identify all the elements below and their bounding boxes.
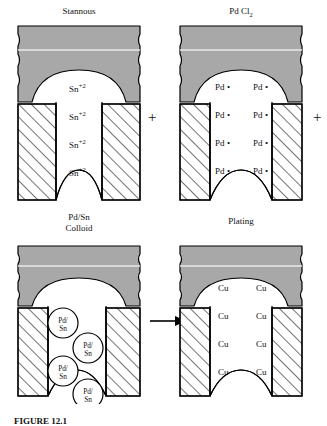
sidewall-left-stannous <box>18 104 56 200</box>
pd-dot-icon: • <box>227 166 230 176</box>
sidewall-left-pdcl2 <box>180 104 210 200</box>
pd-dot-icon: • <box>265 82 268 92</box>
pd-dot-icon: • <box>227 82 230 92</box>
panel-title-colloid-line1: Pd/Sn <box>14 212 144 223</box>
species-label-cu-r2c2: Cu <box>256 311 267 321</box>
sidewall-right-plating <box>272 308 302 396</box>
figure-caption: FIGURE 12.1 <box>14 416 67 426</box>
species-label-pd-r3c1: Pd • <box>215 138 230 148</box>
sidewall-left-colloid <box>18 308 48 396</box>
laminate-top-plating <box>180 246 302 306</box>
colloid-label-3: Pd/ Sn <box>48 365 78 380</box>
pd-dot-icon: • <box>265 138 268 148</box>
panel-pdcl2-graphic <box>176 24 306 204</box>
panel-title-pdcl2-text: Pd Cl <box>229 6 249 16</box>
pd-dot-icon: • <box>265 110 268 120</box>
pd-dot-icon: • <box>265 166 268 176</box>
sidewall-right-colloid <box>106 308 140 396</box>
species-label-sn-4: Sn+2 <box>69 166 86 178</box>
operator-plus-right: + <box>313 110 321 125</box>
sidewall-left-plating <box>180 308 210 396</box>
colloid-label-2: Pd/ Sn <box>73 342 103 357</box>
laminate-top-colloid <box>18 246 140 306</box>
colloid-label-4: Pd/ Sn <box>73 388 103 403</box>
panel-title-colloid-line2: Colloid <box>14 223 144 234</box>
panel-title-pdcl2: Pd Cl2 <box>176 6 306 18</box>
species-label-pd-r1c2: Pd • <box>253 82 268 92</box>
sidewall-right-stannous <box>102 104 140 200</box>
panel-title-stannous: Stannous <box>14 6 144 16</box>
panel-title-plating: Plating <box>176 216 306 226</box>
panel-title-colloid: Pd/Sn Colloid <box>14 212 144 234</box>
species-label-cu-r3c1: Cu <box>218 339 229 349</box>
species-label-sn-2: Sn+2 <box>69 110 86 122</box>
species-label-cu-r4c1: Cu <box>218 367 229 377</box>
panel-title-plating-text: Plating <box>228 216 254 226</box>
species-label-sn-1: Sn+2 <box>69 82 86 94</box>
species-label-pd-r1c1: Pd • <box>215 82 230 92</box>
species-label-pd-r2c2: Pd • <box>253 110 268 120</box>
panel-title-stannous-text: Stannous <box>62 6 95 16</box>
colloid-label-1: Pd/ Sn <box>48 317 78 332</box>
panel-title-pdcl2-sub: 2 <box>250 11 253 18</box>
laminate-top-pdcl2 <box>180 26 302 102</box>
species-label-cu-r1c1: Cu <box>218 283 229 293</box>
species-label-sn-3: Sn+2 <box>69 138 86 150</box>
species-label-pd-r4c2: Pd • <box>253 166 268 176</box>
pd-dot-icon: • <box>227 110 230 120</box>
figure-canvas: Stannous <box>0 0 327 426</box>
species-label-cu-r1c2: Cu <box>256 283 267 293</box>
operator-plus-middle: + <box>148 110 156 125</box>
panel-plating-graphic <box>176 244 306 404</box>
species-label-pd-r3c2: Pd • <box>253 138 268 148</box>
sidewall-right-pdcl2 <box>272 104 302 200</box>
species-label-cu-r3c2: Cu <box>256 339 267 349</box>
species-label-pd-r2c1: Pd • <box>215 110 230 120</box>
pd-dot-icon: • <box>227 138 230 148</box>
species-label-cu-r4c2: Cu <box>256 367 267 377</box>
species-label-cu-r2c1: Cu <box>218 311 229 321</box>
species-label-pd-r4c1: Pd • <box>215 166 230 176</box>
panel-colloid-graphic <box>14 244 144 404</box>
